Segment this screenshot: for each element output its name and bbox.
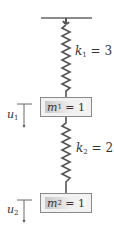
- spring-k2-label: k2 = 2: [76, 141, 113, 156]
- mass-m2: m2 = 1: [40, 193, 92, 213]
- m2-symbol: m: [47, 197, 57, 210]
- u1-subscript: 1: [14, 114, 18, 122]
- mass-m2-label: m2 = 1: [45, 197, 87, 209]
- m1-equals: =: [62, 101, 78, 114]
- u2-label: u2: [7, 203, 19, 217]
- k1-equals: =: [87, 44, 105, 58]
- u2-arrowhead-icon: [23, 220, 26, 223]
- spring-hook: [63, 18, 69, 24]
- k1-value: 3: [104, 44, 112, 58]
- k2-equals: =: [88, 141, 106, 155]
- spring-k2: [62, 117, 70, 193]
- spring-k1-label: k1 = 3: [75, 44, 112, 59]
- spring-k1: [62, 25, 70, 97]
- m2-equals: =: [62, 197, 78, 210]
- k2-value: 2: [105, 141, 113, 155]
- mass-m1: m1 = 1: [40, 97, 92, 117]
- u1-arrowhead-icon: [23, 125, 26, 128]
- u1-label: u1: [7, 108, 19, 122]
- m1-symbol: m: [47, 101, 57, 114]
- u2-subscript: 2: [14, 209, 18, 217]
- m2-value: 1: [78, 197, 85, 210]
- m1-value: 1: [78, 101, 85, 114]
- mass-m1-label: m1 = 1: [45, 101, 87, 113]
